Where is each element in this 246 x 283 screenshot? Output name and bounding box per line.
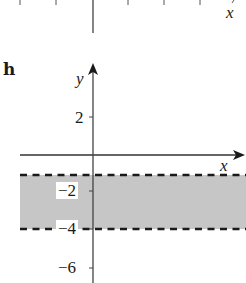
x-axis-label: x — [220, 157, 228, 174]
previous-panel-fragment — [20, 0, 234, 33]
previous-x-axis-label: x — [226, 4, 234, 21]
previous-x-ticks — [20, 0, 234, 5]
y-tick-label-neg4: −4 — [56, 220, 78, 237]
y-axis-label: y — [76, 70, 84, 87]
panel-label: h — [3, 61, 15, 78]
y-tick-label-2: 2 — [75, 109, 84, 126]
figure-canvas — [0, 0, 246, 283]
shaded-region — [20, 175, 246, 229]
y-tick-label-neg2: −2 — [56, 182, 78, 199]
y-tick-label-neg6: −6 — [58, 259, 76, 276]
